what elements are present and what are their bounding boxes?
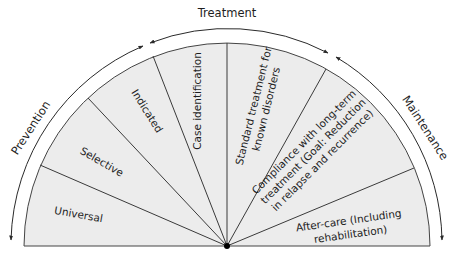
phase-label-treatment: Treatment (197, 6, 257, 20)
intervention-spectrum-diagram: Treatment Prevention Maintenance Univers… (0, 0, 454, 261)
sector-label-case-identification: Case identification (191, 52, 203, 150)
center-dot (224, 243, 230, 249)
phase-label-prevention: Prevention (8, 98, 53, 157)
